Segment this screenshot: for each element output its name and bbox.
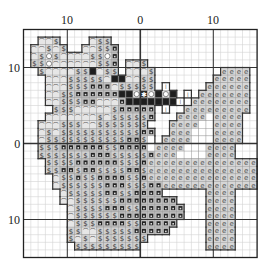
stitch-white — [191, 128, 198, 136]
svg-text:⌒: ⌒ — [83, 46, 89, 52]
svg-text:$: $ — [127, 190, 131, 198]
svg-text:⌒: ⌒ — [68, 198, 74, 204]
svg-text:⌒: ⌒ — [68, 114, 74, 120]
svg-text:⌒: ⌒ — [53, 91, 59, 97]
svg-text:$: $ — [105, 68, 109, 76]
stitch-white — [199, 121, 206, 129]
svg-text:$: $ — [113, 68, 117, 76]
svg-text:⌒: ⌒ — [83, 53, 89, 59]
svg-text:$: $ — [149, 83, 153, 91]
svg-text:⌒: ⌒ — [97, 99, 103, 105]
svg-text:⌒: ⌒ — [46, 38, 52, 44]
svg-text:$: $ — [76, 152, 80, 160]
svg-text:e: e — [156, 174, 160, 182]
svg-text:⌒: ⌒ — [75, 53, 81, 59]
svg-text:⌒: ⌒ — [112, 84, 118, 90]
svg-text:$: $ — [61, 106, 65, 114]
svg-text:⌒: ⌒ — [31, 53, 37, 59]
stitch-white — [206, 128, 213, 136]
svg-text:$: $ — [98, 167, 102, 175]
svg-text:⌒: ⌒ — [126, 68, 132, 74]
svg-text:$: $ — [69, 190, 73, 198]
svg-text:⌒: ⌒ — [53, 175, 59, 181]
svg-text:$: $ — [91, 76, 95, 84]
stitch-white — [206, 113, 213, 121]
svg-text:⌒: ⌒ — [68, 213, 74, 219]
svg-text:⌒: ⌒ — [104, 114, 110, 120]
svg-text:⌒: ⌒ — [97, 106, 103, 112]
stitch-white — [199, 136, 206, 144]
svg-text:$: $ — [83, 152, 87, 160]
svg-text:⌒: ⌒ — [83, 122, 89, 128]
x-tick-label: 10 — [61, 14, 73, 26]
svg-text:$: $ — [98, 76, 102, 84]
svg-text:⌒: ⌒ — [31, 46, 37, 52]
svg-text:$: $ — [105, 45, 109, 53]
svg-text:$: $ — [120, 167, 124, 175]
svg-text:⌒: ⌒ — [39, 122, 45, 128]
svg-text:⌒: ⌒ — [83, 61, 89, 67]
stitch-white — [199, 128, 206, 136]
svg-text:$: $ — [54, 106, 58, 114]
x-tick-label: 10 — [207, 14, 219, 26]
svg-text:$: $ — [142, 121, 146, 129]
svg-text:⌒: ⌒ — [46, 122, 52, 128]
svg-text:⌒: ⌒ — [53, 61, 59, 67]
stitch-white — [206, 136, 213, 144]
svg-text:⌒: ⌒ — [97, 68, 103, 74]
svg-text:⌒: ⌒ — [46, 91, 52, 97]
svg-text:⌒: ⌒ — [134, 61, 140, 67]
svg-text:⌒: ⌒ — [46, 76, 52, 82]
svg-text:⌒: ⌒ — [90, 38, 96, 44]
stitch-white — [191, 136, 198, 144]
svg-text:⌒: ⌒ — [53, 129, 59, 135]
svg-text:⌒: ⌒ — [53, 68, 59, 74]
svg-text:e: e — [200, 113, 204, 121]
svg-text:⌒: ⌒ — [141, 68, 147, 74]
svg-text:⌒: ⌒ — [75, 106, 81, 112]
svg-text:⌒: ⌒ — [126, 61, 132, 67]
svg-text:$: $ — [134, 182, 138, 190]
svg-text:$: $ — [83, 83, 87, 91]
svg-text:⌒: ⌒ — [126, 76, 132, 82]
y-tick-label: 10 — [8, 62, 20, 74]
svg-text:⌒: ⌒ — [90, 236, 96, 242]
svg-text:e: e — [207, 106, 211, 114]
svg-text:$: $ — [54, 38, 58, 46]
svg-text:$: $ — [113, 167, 117, 175]
svg-text:⌒: ⌒ — [61, 53, 67, 59]
svg-text:⌒: ⌒ — [90, 114, 96, 120]
svg-text:⌒: ⌒ — [39, 129, 45, 135]
svg-text:⌒: ⌒ — [83, 114, 89, 120]
svg-text:⌒: ⌒ — [46, 68, 52, 74]
svg-text:$: $ — [113, 197, 117, 205]
svg-text:$: $ — [61, 159, 65, 167]
svg-text:⌒: ⌒ — [61, 61, 67, 67]
svg-text:⌒: ⌒ — [68, 220, 74, 226]
svg-text:⌒: ⌒ — [104, 106, 110, 112]
y-tick-label: 10 — [8, 214, 20, 226]
svg-text:⌒: ⌒ — [61, 76, 67, 82]
stitch-white — [148, 136, 155, 144]
svg-text:$: $ — [134, 220, 138, 228]
svg-text:⌒: ⌒ — [90, 61, 96, 67]
pattern-grid: ⌒⌒$⌒$$⌒⌒$⌒$⌒⌒$$⌒$$⌒⌒⌒⌒$$$$⌒⌒⌒⌒⌒⌒$$⌒⌒$$⌒⌒… — [0, 0, 271, 274]
svg-text:$: $ — [127, 83, 131, 91]
svg-text:$: $ — [76, 98, 80, 106]
svg-text:⌒: ⌒ — [61, 114, 67, 120]
svg-text:$: $ — [134, 159, 138, 167]
svg-text:⌒: ⌒ — [75, 61, 81, 67]
svg-text:$: $ — [83, 220, 87, 228]
svg-text:$: $ — [76, 167, 80, 175]
stitch-white — [177, 151, 184, 159]
svg-text:⌒: ⌒ — [53, 182, 59, 188]
svg-text:⌒: ⌒ — [61, 84, 67, 90]
y-tick-label: 0 — [14, 138, 20, 150]
svg-text:⌒: ⌒ — [68, 61, 74, 67]
svg-text:⌒: ⌒ — [104, 76, 110, 82]
svg-text:⌒: ⌒ — [83, 106, 89, 112]
svg-text:⌒: ⌒ — [39, 46, 45, 52]
svg-text:$: $ — [120, 190, 124, 198]
svg-text:$: $ — [61, 45, 65, 53]
svg-text:⌒: ⌒ — [53, 122, 59, 128]
